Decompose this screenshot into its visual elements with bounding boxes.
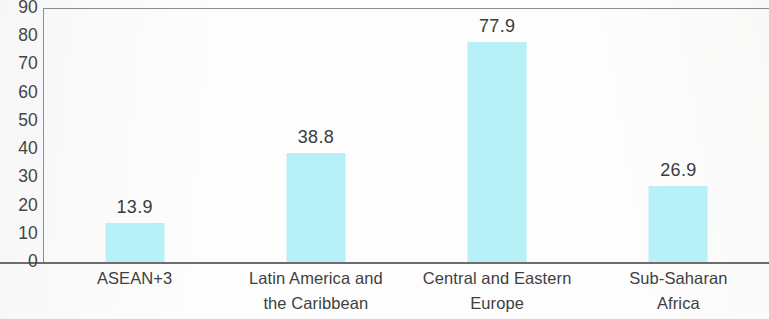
y-axis-tick-80: 80 [4, 27, 38, 45]
x-axis-label-line: the Caribbean [225, 291, 406, 316]
bar-value-label: 38.8 [298, 128, 334, 146]
y-axis-tick-60: 60 [4, 84, 38, 102]
bar-slot: 26.9 [588, 8, 769, 262]
y-axis-tick-50: 50 [4, 112, 38, 130]
x-axis-label-line: Sub-Saharan [588, 266, 769, 291]
bar-value-label: 13.9 [117, 198, 153, 216]
y-axis-tick-10: 10 [4, 225, 38, 243]
y-axis-tick-20: 20 [4, 197, 38, 215]
x-axis-label-2: Central and EasternEurope [407, 266, 588, 316]
x-axis-label-1: Latin America andthe Caribbean [225, 266, 406, 316]
y-axis-tick-70: 70 [4, 55, 38, 73]
x-axis-label-line: Europe [407, 291, 588, 316]
bar[interactable] [649, 186, 708, 262]
plot-area: 13.938.877.926.9 [44, 8, 769, 262]
bar-value-label: 26.9 [660, 161, 696, 179]
y-axis-tick-90: 90 [4, 0, 38, 17]
y-axis-tick-0: 0 [4, 253, 38, 271]
x-axis-label-line: Central and Eastern [407, 266, 588, 291]
bar[interactable] [105, 223, 164, 262]
x-axis-label-3: Sub-SaharanAfrica [588, 266, 769, 316]
y-axis-tick-40: 40 [4, 140, 38, 158]
bar[interactable] [286, 153, 345, 263]
bar-chart-figure: 9080706050403020100 13.938.877.926.9 ASE… [0, 0, 769, 319]
bar-slot: 13.9 [44, 8, 225, 262]
y-axis-tick-30: 30 [4, 168, 38, 186]
bar-value-label: 77.9 [479, 17, 515, 35]
bar[interactable] [468, 42, 527, 262]
bar-slot: 38.8 [225, 8, 406, 262]
x-axis-category-labels: ASEAN+3Latin America andthe CaribbeanCen… [44, 266, 769, 319]
x-axis-baseline [0, 262, 769, 264]
x-axis-label-line: Latin America and [225, 266, 406, 291]
bar-slot: 77.9 [407, 8, 588, 262]
x-axis-label-0: ASEAN+3 [44, 266, 225, 291]
x-axis-label-line: ASEAN+3 [44, 266, 225, 291]
x-axis-label-line: Africa [588, 291, 769, 316]
